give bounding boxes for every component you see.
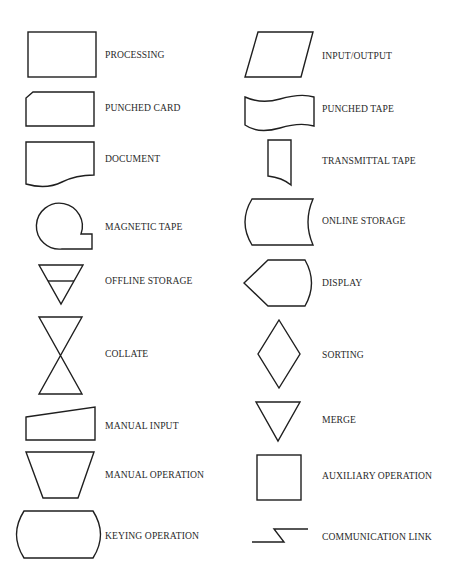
label-display: DISPLAY bbox=[322, 278, 362, 288]
label-manual-input: MANUAL INPUT bbox=[105, 421, 179, 431]
label-manual-operation: MANUAL OPERATION bbox=[105, 470, 204, 480]
label-transmittal-tape: TRANSMITTAL TAPE bbox=[322, 156, 416, 166]
transmittal-tape-symbol bbox=[268, 140, 291, 185]
label-punched-card: PUNCHED CARD bbox=[105, 103, 181, 113]
punched-card-symbol bbox=[26, 92, 94, 126]
label-online-storage: ONLINE STORAGE bbox=[322, 216, 406, 226]
input-output-symbol bbox=[245, 32, 313, 77]
label-processing: PROCESSING bbox=[105, 50, 165, 60]
label-auxiliary-operation: AUXILIARY OPERATION bbox=[322, 471, 432, 481]
merge-symbol bbox=[256, 402, 300, 441]
punched-tape-symbol bbox=[245, 95, 314, 130]
offline-storage-symbol bbox=[39, 265, 83, 304]
label-sorting: SORTING bbox=[322, 350, 364, 360]
document-symbol bbox=[26, 142, 94, 186]
manual-input-symbol bbox=[26, 407, 95, 440]
sorting-symbol bbox=[258, 320, 300, 388]
communication-link-symbol bbox=[252, 529, 308, 542]
manual-operation-symbol bbox=[26, 452, 94, 498]
label-offline-storage: OFFLINE STORAGE bbox=[105, 276, 192, 286]
label-magnetic-tape: MAGNETIC TAPE bbox=[105, 222, 182, 232]
display-symbol bbox=[244, 260, 312, 306]
online-storage-symbol bbox=[245, 199, 313, 245]
label-collate: COLLATE bbox=[105, 349, 148, 359]
processing-symbol bbox=[28, 32, 96, 77]
collate-symbol bbox=[39, 317, 82, 394]
magnetic-tape-symbol bbox=[36, 203, 92, 249]
keying-operation-symbol bbox=[17, 511, 101, 558]
label-input-output: INPUT/OUTPUT bbox=[322, 51, 392, 61]
auxiliary-operation-symbol bbox=[257, 455, 301, 500]
label-communication-link: COMMUNICATION LINK bbox=[322, 532, 432, 542]
label-merge: MERGE bbox=[322, 415, 356, 425]
symbol-canvas bbox=[0, 0, 452, 578]
label-punched-tape: PUNCHED TAPE bbox=[322, 104, 394, 114]
label-keying-operation: KEYING OPERATION bbox=[105, 531, 199, 541]
label-document: DOCUMENT bbox=[105, 154, 160, 164]
